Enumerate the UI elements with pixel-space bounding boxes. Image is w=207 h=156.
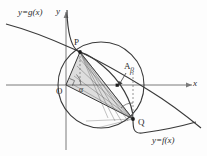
label-angle-beta: β [130,67,134,75]
curve-g [6,24,201,128]
figure-canvas [0,0,207,156]
label-curve-f: y=f(x) [152,136,175,145]
label-angle-alpha: α [79,86,83,94]
geometry-figure: y=g(x) y x O P Q A α β y=f(x) [0,0,207,156]
point-marker-p [78,50,82,54]
label-curve-g: y=g(x) [18,8,43,17]
label-origin: O [56,87,63,96]
label-x-axis: x [193,79,197,88]
label-point-p: P [74,38,79,47]
point-marker-q [131,117,135,121]
point-marker-a [116,84,119,87]
x-axis-arrow [186,83,192,88]
label-y-axis: y [56,7,60,16]
label-point-q: Q [138,118,145,127]
